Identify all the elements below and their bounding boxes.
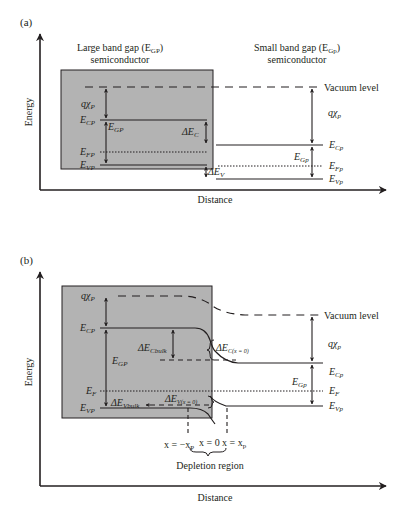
vacuum-level-label: Vacuum level — [324, 310, 379, 321]
x-neg-xp-label: x = −xP — [164, 439, 194, 452]
E-Cp-label: ECp — [328, 366, 344, 379]
vacuum-level-label: Vacuum level — [324, 82, 379, 93]
distance-axis-label: Distance — [198, 492, 234, 503]
right-semiconductor-title-line2: semiconductor — [268, 54, 328, 65]
delta-Ec-x0-label: ΔEC(x = 0) — [215, 342, 249, 355]
x-zero-label: x = 0 — [199, 437, 220, 448]
E-Gp-label: EGp — [291, 376, 307, 389]
chi-p-label: qχp — [328, 107, 341, 120]
left-semiconductor-title-line2: semiconductor — [91, 54, 151, 65]
panel-b: (b) Energy Distance Vacuum level — [20, 254, 386, 503]
E-F-right-label: EF — [328, 385, 340, 398]
panel-a: (a) Energy Distance Large band gap (EGP)… — [20, 16, 386, 205]
energy-axis-label: Energy — [23, 358, 34, 387]
E-Cp-label: ECp — [328, 139, 344, 152]
depletion-region-label: Depletion region — [176, 460, 243, 471]
E-Vp-label: EVp — [328, 400, 343, 413]
depletion-region-brace — [190, 448, 226, 456]
E-Gp-label: EGp — [293, 151, 309, 164]
chi-p-label: qχp — [328, 338, 341, 351]
E-Fp-label: EFp — [328, 160, 343, 173]
panel-b-label: (b) — [20, 254, 33, 267]
distance-axis-label: Distance — [198, 194, 234, 205]
panel-a-label: (a) — [20, 16, 33, 29]
delta-Ev-label: ΔEV — [207, 166, 225, 179]
energy-axis-label: Energy — [23, 98, 34, 127]
E-Vp-label: EVp — [328, 173, 343, 186]
heterojunction-band-diagram: (a) Energy Distance Large band gap (EGP)… — [0, 0, 409, 514]
